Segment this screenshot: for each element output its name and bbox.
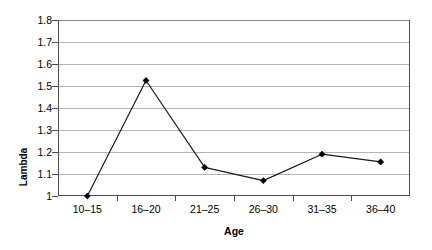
y-axis-tick-mark bbox=[52, 20, 58, 21]
y-axis-tick-mark bbox=[52, 130, 58, 131]
series-line bbox=[87, 81, 380, 197]
data-point-marker bbox=[260, 178, 266, 184]
y-axis-tick-mark bbox=[52, 174, 58, 175]
x-axis-tick-mark bbox=[117, 196, 118, 201]
x-axis-tick-mark bbox=[293, 196, 294, 201]
line-chart: Lambda 1.81.71.61.51.41.31.21.11 10–1516… bbox=[0, 0, 432, 250]
x-axis-tick-label: 36–40 bbox=[346, 203, 416, 216]
y-axis-tick-mark bbox=[52, 42, 58, 43]
y-axis-tick-mark bbox=[52, 108, 58, 109]
y-axis-tick-mark bbox=[52, 64, 58, 65]
y-axis-tick-mark bbox=[52, 152, 58, 153]
data-point-marker bbox=[378, 159, 384, 165]
data-point-marker bbox=[319, 151, 325, 157]
y-axis-tick-mark bbox=[52, 86, 58, 87]
x-axis-tick-mark bbox=[175, 196, 176, 201]
x-axis-tick-mark bbox=[351, 196, 352, 201]
y-axis-tick-mark bbox=[52, 196, 58, 197]
x-axis-tick-mark bbox=[234, 196, 235, 201]
x-axis-title: Age bbox=[58, 225, 410, 237]
data-point-marker bbox=[84, 193, 90, 199]
